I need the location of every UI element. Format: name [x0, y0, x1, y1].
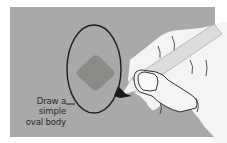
- caption-line-3: oval body: [14, 117, 66, 127]
- caption-line-1: Draw a: [14, 96, 66, 106]
- caption: Draw a simple oval body: [14, 96, 66, 127]
- diamond-shape: [77, 55, 115, 90]
- caption-line-2: simple: [14, 106, 66, 116]
- thumbnail: [138, 72, 158, 91]
